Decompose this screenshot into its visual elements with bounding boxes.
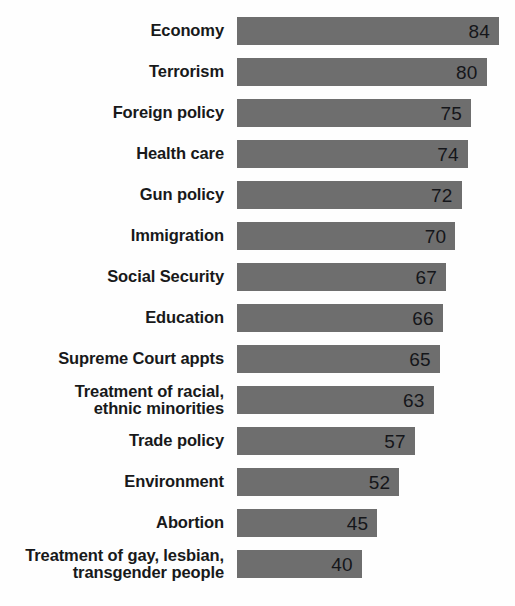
bar-track: 40 xyxy=(237,550,515,578)
bar-track: 66 xyxy=(237,304,515,332)
bar-value-label: 65 xyxy=(409,350,431,369)
bar: 57 xyxy=(237,427,415,455)
bar-track: 74 xyxy=(237,140,515,168)
bar-track: 45 xyxy=(237,509,515,537)
bar-value-label: 52 xyxy=(369,473,391,492)
bar-value-label: 74 xyxy=(437,145,459,164)
bar: 45 xyxy=(237,509,377,537)
bar-value-label: 70 xyxy=(425,227,447,246)
category-label: Abortion xyxy=(0,514,237,531)
chart-row: Economy 84 xyxy=(0,17,515,45)
bar: 67 xyxy=(237,263,446,291)
chart-row: Treatment of racial, ethnic minorities 6… xyxy=(0,386,515,414)
bar-value-label: 63 xyxy=(403,391,425,410)
bar: 75 xyxy=(237,99,471,127)
bar-value-label: 72 xyxy=(431,186,453,205)
category-label: Social Security xyxy=(0,268,237,285)
bar: 40 xyxy=(237,550,362,578)
chart-row: Supreme Court appts 65 xyxy=(0,345,515,373)
bar-track: 52 xyxy=(237,468,515,496)
bar-value-label: 67 xyxy=(415,268,437,287)
category-label: Supreme Court appts xyxy=(0,350,237,367)
chart-row: Environment 52 xyxy=(0,468,515,496)
bar-track: 84 xyxy=(237,17,515,45)
bar-value-label: 84 xyxy=(468,22,490,41)
chart-row: Trade policy 57 xyxy=(0,427,515,455)
bar: 66 xyxy=(237,304,443,332)
bar-value-label: 75 xyxy=(440,104,462,123)
chart-row: Abortion 45 xyxy=(0,509,515,537)
category-label: Environment xyxy=(0,473,237,490)
bar: 63 xyxy=(237,386,434,414)
category-label: Economy xyxy=(0,22,237,39)
bar-track: 63 xyxy=(237,386,515,414)
bar-value-label: 66 xyxy=(412,309,434,328)
bar: 84 xyxy=(237,17,499,45)
bar: 65 xyxy=(237,345,440,373)
chart-row: Health care 74 xyxy=(0,140,515,168)
chart-row: Education 66 xyxy=(0,304,515,332)
chart-row: Gun policy 72 xyxy=(0,181,515,209)
chart-row: Foreign policy 75 xyxy=(0,99,515,127)
bar-track: 65 xyxy=(237,345,515,373)
bar-track: 67 xyxy=(237,263,515,291)
bar-value-label: 80 xyxy=(456,63,478,82)
category-label: Health care xyxy=(0,145,237,162)
bar: 52 xyxy=(237,468,399,496)
bar-track: 75 xyxy=(237,99,515,127)
chart-row: Treatment of gay, lesbian, transgender p… xyxy=(0,550,515,578)
category-label: Terrorism xyxy=(0,63,237,80)
chart-row: Terrorism 80 xyxy=(0,58,515,86)
category-label: Treatment of racial, ethnic minorities xyxy=(0,383,237,417)
chart-row: Social Security 67 xyxy=(0,263,515,291)
bar-track: 57 xyxy=(237,427,515,455)
chart-row: Immigration 70 xyxy=(0,222,515,250)
bar-track: 80 xyxy=(237,58,515,86)
category-label: Foreign policy xyxy=(0,104,237,121)
bar: 72 xyxy=(237,181,462,209)
bar: 74 xyxy=(237,140,468,168)
category-label: Education xyxy=(0,309,237,326)
category-label: Gun policy xyxy=(0,186,237,203)
bar: 80 xyxy=(237,58,487,86)
bar-value-label: 57 xyxy=(384,432,406,451)
bar-track: 70 xyxy=(237,222,515,250)
bar-value-label: 45 xyxy=(347,514,369,533)
category-label: Trade policy xyxy=(0,432,237,449)
bar-value-label: 40 xyxy=(331,555,353,574)
horizontal-bar-chart: Economy 84 Terrorism 80 Foreign policy 7… xyxy=(0,0,515,606)
bar-track: 72 xyxy=(237,181,515,209)
category-label: Immigration xyxy=(0,227,237,244)
category-label: Treatment of gay, lesbian, transgender p… xyxy=(0,547,237,581)
bar: 70 xyxy=(237,222,455,250)
